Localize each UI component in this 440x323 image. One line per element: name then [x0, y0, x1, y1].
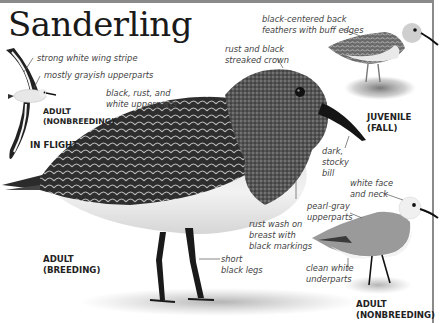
callout-breast-line2: breast with: [249, 230, 296, 241]
label-in-flight: IN FLIGHT: [30, 140, 78, 151]
callout-juvenile-back-line2: feathers with buff edges: [262, 25, 364, 36]
label-nonbreeding-1: ADULT: [356, 299, 387, 310]
label-flight-nonbreeding: (NONBREEDING): [43, 117, 115, 127]
callout-bill-line1: dark,: [322, 146, 343, 157]
callout-gray-upperparts: mostly grayish upperparts: [44, 70, 153, 81]
callout-face-line2: and neck: [350, 189, 388, 200]
page-title: Sanderling: [8, 2, 192, 46]
label-juvenile-2: (FALL): [367, 123, 397, 134]
callout-breast-line1: rust wash on: [249, 219, 302, 230]
callout-underparts-line2: underparts: [306, 274, 352, 285]
callout-crown-line2: streaked crown: [225, 55, 289, 66]
callout-wing-stripe: strong white wing stripe: [37, 53, 138, 64]
callout-crown-line1: rust and black: [225, 44, 284, 55]
leader-bill: [345, 136, 349, 148]
leader-gray-upperparts: [34, 76, 40, 88]
nonbreeding-ground: [344, 276, 412, 294]
label-flight-adult: ADULT: [43, 107, 71, 117]
callout-pearl-gray-line2: upperparts: [307, 212, 353, 223]
field-guide-page: Sanderling strong white wing stripe most…: [0, 0, 440, 323]
label-adult-breeding-1: ADULT: [43, 254, 74, 265]
callout-legs-line1: short: [221, 254, 242, 265]
label-nonbreeding-2: (NONBREEDING): [356, 310, 435, 321]
callout-upperparts-line1: black, rust, and: [106, 88, 170, 99]
callout-breast-line3: black markings: [249, 241, 312, 252]
label-juvenile-1: JUVENILE: [367, 112, 411, 123]
callout-bill-line3: bill: [322, 168, 334, 179]
callout-underparts-line1: clean white: [306, 263, 354, 274]
callout-bill-line2: stocky: [322, 157, 349, 168]
callout-face-line1: white face: [350, 178, 393, 189]
callout-juvenile-back-line1: black-centered back: [262, 14, 346, 25]
water-reflection: [80, 288, 360, 316]
callout-upperparts-line2: white upperparts: [106, 99, 177, 110]
callout-pearl-gray-line1: pearl-gray: [307, 201, 350, 212]
callout-legs-line2: black legs: [221, 265, 263, 276]
label-adult-breeding-2: (BREEDING): [43, 265, 100, 276]
